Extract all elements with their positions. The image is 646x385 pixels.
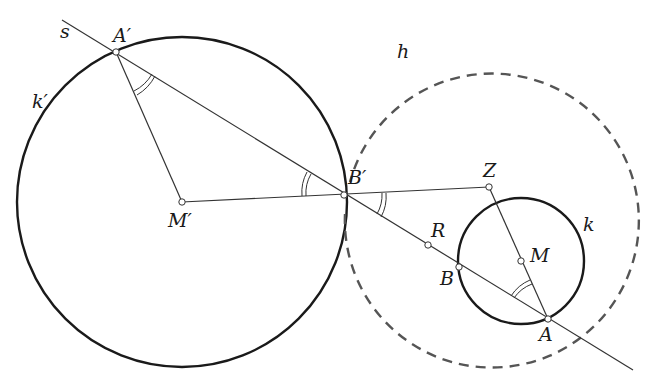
label-m: M — [529, 244, 550, 266]
label-h: h — [397, 40, 409, 62]
label-b: B — [439, 267, 454, 289]
point-z — [486, 184, 492, 190]
point-b-prime — [341, 192, 347, 198]
point-a-prime — [113, 49, 119, 55]
label-s: s — [60, 20, 70, 42]
point-a — [545, 316, 551, 322]
label-a-prime: A′ — [111, 24, 132, 46]
angle-mark-b-prime-left — [302, 172, 311, 196]
angle-mark-a-prime — [134, 74, 155, 95]
label-k: k — [583, 213, 595, 235]
point-b — [456, 264, 462, 270]
point-r — [425, 242, 431, 248]
point-m — [518, 258, 524, 264]
label-k-prime: k′ — [32, 90, 49, 112]
point-m-prime — [179, 199, 185, 205]
angle-mark-a — [511, 280, 532, 298]
segment-m-prime-z — [182, 187, 489, 202]
geometry-diagram: s A′ k′ M′ B′ Z h R B M k A — [0, 0, 646, 385]
label-m-prime: M′ — [167, 209, 192, 231]
label-b-prime: B′ — [347, 166, 367, 188]
segment-a-prime-m-prime — [116, 52, 182, 202]
label-a: A — [537, 323, 553, 345]
label-z: Z — [482, 159, 497, 181]
label-r: R — [430, 219, 445, 241]
